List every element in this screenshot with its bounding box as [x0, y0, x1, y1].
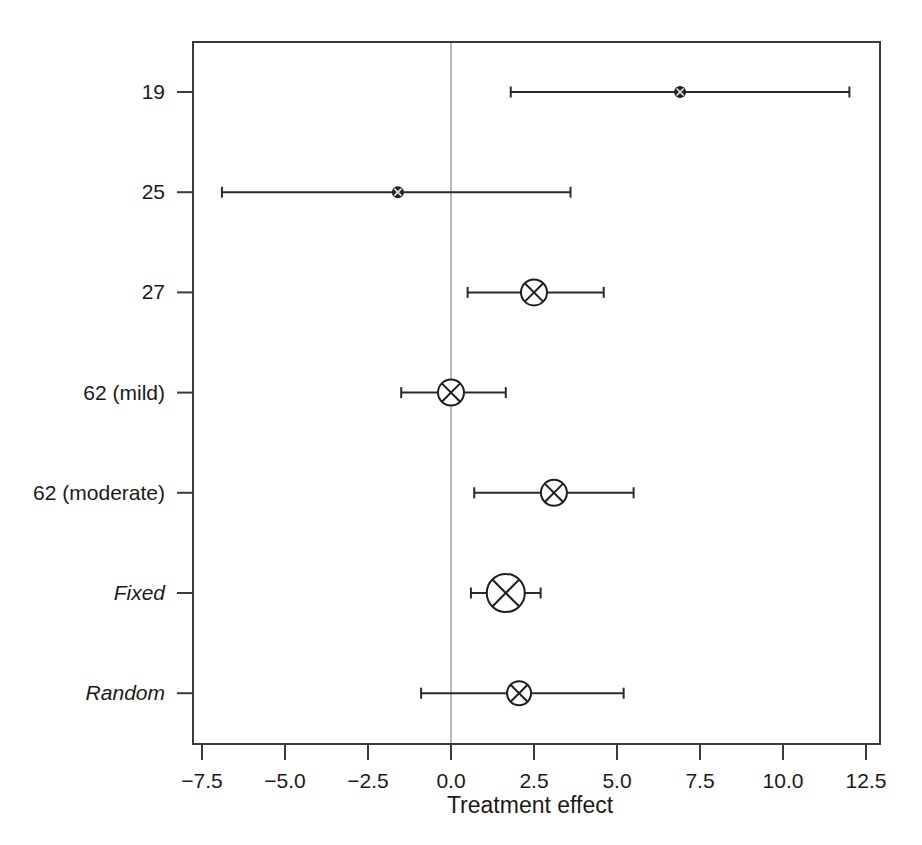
forest-plot: 19252762 (mild)62 (moderate)FixedRandom … — [0, 0, 922, 845]
y-axis-label: 25 — [142, 180, 165, 203]
y-axis-label: 62 (moderate) — [33, 481, 165, 504]
y-axis-label: 27 — [142, 280, 165, 303]
x-axis-tick-labels: −7.5−5.0−2.50.02.55.07.510.012.5 — [181, 769, 886, 792]
x-axis-tick-label: 5.0 — [602, 769, 631, 792]
x-axis-title: Treatment effect — [447, 792, 614, 818]
x-axis-tick-label: 2.5 — [519, 769, 548, 792]
x-axis-tick-label: 0.0 — [436, 769, 465, 792]
x-axis-tick-label: −5.0 — [264, 769, 305, 792]
y-axis-label: Fixed — [114, 581, 167, 604]
x-axis-tick-label: 7.5 — [685, 769, 714, 792]
plot-background — [0, 0, 922, 845]
y-axis-label: 19 — [142, 80, 165, 103]
x-axis-tick-label: −7.5 — [181, 769, 222, 792]
x-axis-tick-label: 12.5 — [846, 769, 887, 792]
forest-plot-canvas: 19252762 (mild)62 (moderate)FixedRandom … — [0, 0, 922, 845]
y-axis-label: Random — [86, 681, 165, 704]
x-axis-tick-label: 10.0 — [763, 769, 804, 792]
y-axis-label: 62 (mild) — [83, 381, 165, 404]
x-axis-tick-label: −2.5 — [347, 769, 388, 792]
